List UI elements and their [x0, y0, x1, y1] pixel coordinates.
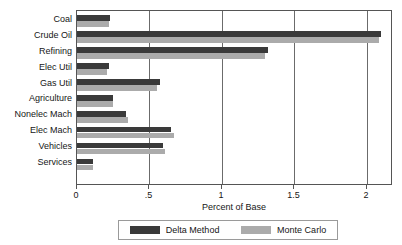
- y-axis-category-labels: CoalCrude OilRefiningElec UtilGas UtilAg…: [0, 10, 72, 185]
- bar-monte-carlo: [77, 117, 128, 123]
- legend-item-delta-method: Delta Method: [130, 225, 220, 235]
- y-axis-label: Coal: [0, 14, 72, 24]
- y-axis-label: Vehicles: [0, 141, 72, 151]
- bar-delta-method: [77, 31, 381, 37]
- bar-monte-carlo: [77, 165, 93, 171]
- bar-delta-method: [77, 63, 109, 69]
- x-tick-mark: [76, 185, 77, 189]
- bar-chart: CoalCrude OilRefiningElec UtilGas UtilAg…: [0, 0, 402, 245]
- bar-row: [77, 62, 391, 78]
- legend-swatch-icon-delta-method: [130, 226, 160, 234]
- legend-label-monte-carlo: Monte Carlo: [277, 225, 326, 235]
- bar-monte-carlo: [77, 53, 265, 59]
- x-tick-label: 2: [351, 190, 381, 200]
- bar-monte-carlo: [77, 85, 157, 91]
- y-axis-label: Nonelec Mach: [0, 109, 72, 119]
- x-tick-mark: [221, 185, 222, 189]
- chart-legend: Delta Method Monte Carlo: [118, 220, 338, 240]
- x-tick-mark: [366, 185, 367, 189]
- bar-delta-method: [77, 159, 93, 165]
- x-tick-label: 0: [61, 190, 91, 200]
- bar-row: [77, 30, 391, 46]
- y-axis-label: Refining: [0, 46, 72, 56]
- y-axis-label: Gas Util: [0, 78, 72, 88]
- y-axis-label: Services: [0, 157, 72, 167]
- x-tick-mark: [293, 185, 294, 189]
- bar-row: [77, 141, 391, 157]
- bar-row: [77, 78, 391, 94]
- x-tick-label: .5: [133, 190, 163, 200]
- bar-row: [77, 14, 391, 30]
- bar-monte-carlo: [77, 21, 109, 27]
- y-axis-label: Crude Oil: [0, 30, 72, 40]
- bar-delta-method: [77, 143, 163, 149]
- x-axis-title: Percent of Base: [76, 202, 392, 213]
- bar-monte-carlo: [77, 133, 174, 139]
- bar-monte-carlo: [77, 69, 107, 75]
- bar-rows: [77, 11, 391, 184]
- x-tick-mark: [148, 185, 149, 189]
- bar-delta-method: [77, 95, 113, 101]
- legend-item-monte-carlo: Monte Carlo: [241, 225, 326, 235]
- bar-row: [77, 46, 391, 62]
- bar-delta-method: [77, 15, 110, 21]
- bar-delta-method: [77, 47, 268, 53]
- plot-area: [76, 10, 392, 185]
- y-axis-label: Agriculture: [0, 93, 72, 103]
- legend-label-delta-method: Delta Method: [166, 225, 220, 235]
- x-tick-label: 1.5: [278, 190, 308, 200]
- bar-monte-carlo: [77, 37, 379, 43]
- bar-delta-method: [77, 127, 171, 133]
- bar-monte-carlo: [77, 149, 165, 155]
- y-axis-label: Elec Util: [0, 62, 72, 72]
- bar-monte-carlo: [77, 101, 113, 107]
- legend-swatch-icon-monte-carlo: [241, 226, 271, 234]
- bar-row: [77, 125, 391, 141]
- bar-delta-method: [77, 111, 126, 117]
- bar-row: [77, 109, 391, 125]
- y-axis-label: Elec Mach: [0, 125, 72, 135]
- bar-row: [77, 93, 391, 109]
- bar-delta-method: [77, 79, 160, 85]
- bar-row: [77, 157, 391, 173]
- x-tick-label: 1: [206, 190, 236, 200]
